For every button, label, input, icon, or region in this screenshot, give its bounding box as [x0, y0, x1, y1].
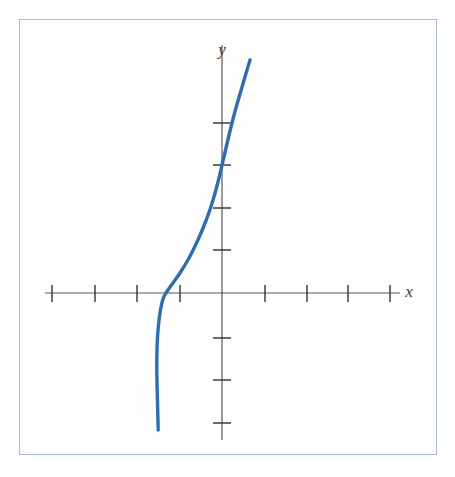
- y-axis-label: y: [216, 40, 226, 59]
- graph-canvas: x y: [0, 0, 455, 477]
- x-axis-label: x: [404, 282, 413, 301]
- curve-path: [157, 60, 250, 430]
- figure-root: x y: [0, 0, 455, 477]
